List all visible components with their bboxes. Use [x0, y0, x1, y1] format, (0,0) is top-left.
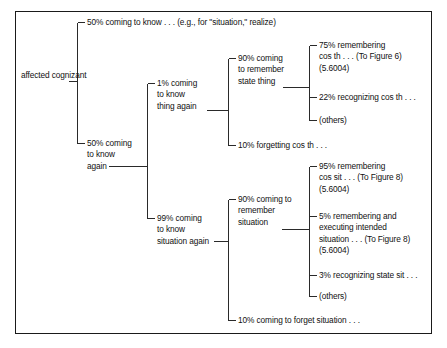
node-1-coming-to-know-thing-again: 1% coming to know thing again [157, 78, 197, 112]
node-3-recognizing-state-sit: 3% recognizing state sit . . . [319, 270, 417, 281]
node-95-remembering-cos-sit: 95% remembering cos sit . . . (To Figure… [319, 161, 403, 195]
node-50-coming-to-know-again: 50% coming to know again [87, 138, 132, 172]
node-others-thing: (others) [319, 115, 347, 126]
diagram-page: affected cognizant 50% coming to know . … [0, 0, 447, 348]
node-10-forgetting-cos-th: 10% forgetting cos th . . . [238, 140, 327, 151]
node-50-coming-to-know: 50% coming to know . . . (e.g., for "sit… [87, 17, 276, 28]
node-75-remembering-cos-th: 75% remembering cos th . . . (To Figure … [319, 40, 402, 74]
node-90-coming-to-remember-situation: 90% coming to remember situation [238, 194, 292, 228]
node-90-coming-to-remember-state-thing: 90% coming to remember state thing [238, 53, 284, 87]
node-22-recognizing-cos-th: 22% recognizing cos th . . . [319, 92, 416, 103]
node-10-coming-to-forget-situation: 10% coming to forget situation . . . [238, 315, 360, 326]
node-others-situation: (others) [319, 291, 347, 302]
node-5-remembering-executing-intended-situation: 5% remembering and executing intended si… [319, 211, 410, 256]
node-root-label: affected cognizant [21, 70, 86, 81]
node-99-coming-to-know-situation-again: 99% coming to know situation again [157, 213, 209, 247]
